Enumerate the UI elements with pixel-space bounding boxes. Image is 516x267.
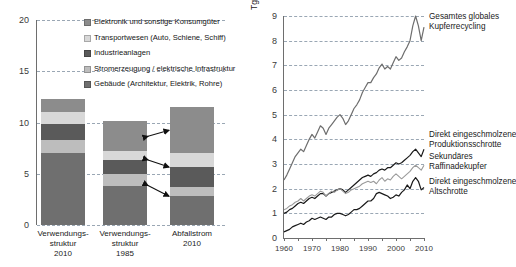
bar-segment-transport[interactable] <box>170 153 214 167</box>
stacked-bar[interactable] <box>170 107 214 225</box>
legend-item-gebaeude[interactable]: Gebäude (Architektur, Elektrik, Rohre) <box>84 79 249 88</box>
legend-swatch-icon-elektronik <box>84 19 91 26</box>
line-series-label-line: Direkt eingeschmolzene <box>429 177 516 187</box>
line-series-0[interactable] <box>284 16 424 180</box>
legend-item-label: Elektronik und sonstige Konsumgüter <box>94 17 220 26</box>
bar-category-label-line: 1985 <box>80 249 170 259</box>
line-x-tickmark-1975 <box>326 238 327 241</box>
line-y-tick-5: 5 <box>251 110 277 120</box>
bar-y-tick-5: 5 <box>0 169 29 179</box>
line-x-tick-2010: 2010 <box>410 244 438 253</box>
bar-y-tick-20: 20 <box>0 15 29 25</box>
line-x-tickmark-1980 <box>340 238 341 241</box>
bar-segment-elektronik[interactable] <box>170 107 214 153</box>
bar-connector-arrow-0 <box>148 130 169 136</box>
bar-y-tick-10: 10 <box>0 118 29 128</box>
line-chart-plot-area <box>284 16 424 238</box>
legend-item-transport[interactable]: Transportwesen (Auto, Schiene, Schiff) <box>84 33 249 42</box>
line-x-tickmark-1970 <box>312 238 313 241</box>
bar-category-label: Abfallstrom2010 <box>147 229 237 249</box>
legend-item-industrie[interactable]: Industrieanlagen <box>84 48 249 57</box>
bar-connector-arrow-1 <box>148 160 169 167</box>
legend-item-label: Stromerzeugung / elektrische Infrastrukt… <box>94 64 235 73</box>
bar-segment-gebaeude[interactable] <box>41 153 85 225</box>
line-x-tickmark-1965 <box>298 238 299 241</box>
legend-item-label: Industrieanlagen <box>94 48 150 57</box>
line-y-tick-8: 8 <box>251 36 277 46</box>
bar-segment-elektronik[interactable] <box>103 121 147 151</box>
legend-swatch-icon-transport <box>84 35 91 42</box>
stacked-bar[interactable] <box>41 99 85 225</box>
bar-y-axis-line <box>36 20 37 225</box>
bar-segment-strom[interactable] <box>41 140 85 153</box>
line-series-label-line: Raffinadekupfer <box>429 162 487 172</box>
bar-category-label-line: Abfallstrom <box>147 229 237 239</box>
line-y-tick-0: 0 <box>251 233 277 243</box>
bar-chart-legend: Elektronik und sonstige KonsumgüterTrans… <box>84 17 249 95</box>
bar-segment-gebaeude[interactable] <box>103 186 147 225</box>
line-series-label-altschrotte: Direkt eingeschmolzeneAltschrotte <box>429 177 516 196</box>
line-y-tick-9: 9 <box>251 11 277 21</box>
bar-segment-transport[interactable] <box>41 112 85 124</box>
stacked-bar[interactable] <box>103 121 147 225</box>
line-x-tick-1980: 1980 <box>326 244 354 253</box>
line-series-label-gesamt: Gesamtes globalesKupferrecycling <box>429 12 499 31</box>
legend-swatch-icon-strom <box>84 66 91 73</box>
line-x-tickmark-1990 <box>368 238 369 241</box>
line-y-tick-1: 1 <box>251 208 277 218</box>
line-x-tickmark-1960 <box>284 238 285 241</box>
legend-item-elektronik[interactable]: Elektronik und sonstige Konsumgüter <box>84 17 249 26</box>
stacked-bar-chart-panel: Elektronik und sonstige KonsumgüterTrans… <box>0 0 251 267</box>
line-series-label-line: Direkt eingeschmolzene <box>429 130 516 140</box>
line-x-tick-2000: 2000 <box>382 244 410 253</box>
line-series-1[interactable] <box>284 149 424 213</box>
line-y-tick-6: 6 <box>251 85 277 95</box>
line-y-tick-3: 3 <box>251 159 277 169</box>
bar-segment-gebaeude[interactable] <box>170 196 214 225</box>
line-x-tickmark-1985 <box>354 238 355 241</box>
line-series-label-produktionsschrotte: Direkt eingeschmolzeneProduktionsschrott… <box>429 130 516 149</box>
line-x-tickmark-2000 <box>396 238 397 241</box>
line-series-label-line: Altschrotte <box>429 187 516 197</box>
bar-connector-arrow-2 <box>148 186 169 197</box>
line-x-tick-1960: 1960 <box>270 244 298 253</box>
line-x-tick-1990: 1990 <box>354 244 382 253</box>
line-series-label-line: Sekundäres <box>429 152 487 162</box>
line-series-label-line: Produktionsschrotte <box>429 140 516 150</box>
legend-item-label: Gebäude (Architektur, Elektrik, Rohre) <box>94 79 222 88</box>
legend-item-label: Transportwesen (Auto, Schiene, Schiff) <box>94 33 226 42</box>
bar-category-label-line: 2010 <box>147 239 237 249</box>
bar-segment-industrie[interactable] <box>170 167 214 186</box>
line-chart-y-axis-label: Tg / a <box>249 0 259 10</box>
bar-segment-industrie[interactable] <box>41 124 85 140</box>
line-series-label-raffinadekupfer: SekundäresRaffinadekupfer <box>429 152 487 171</box>
bar-segment-transport[interactable] <box>103 151 147 160</box>
legend-swatch-icon-gebaeude <box>84 81 91 88</box>
line-chart-panel: Tg / a 012345678919601970198019902000201… <box>251 0 502 267</box>
bar-segment-elektronik[interactable] <box>41 99 85 112</box>
bar-gridline-0 <box>37 225 225 226</box>
line-series-label-line: Kupferrecycling <box>429 22 499 32</box>
bar-y-tick-15: 15 <box>0 66 29 76</box>
line-x-tickmark-2005 <box>410 238 411 241</box>
line-series-label-line: Gesamtes globales <box>429 12 499 22</box>
line-x-tick-1970: 1970 <box>298 244 326 253</box>
line-x-tickmark-2010 <box>424 238 425 241</box>
line-x-tickmark-1995 <box>382 238 383 241</box>
legend-item-strom[interactable]: Stromerzeugung / elektrische Infrastrukt… <box>84 64 249 73</box>
line-chart-series-group <box>284 16 424 238</box>
bar-segment-strom[interactable] <box>103 174 147 186</box>
bar-segment-strom[interactable] <box>170 187 214 197</box>
legend-swatch-icon-industrie <box>84 50 91 57</box>
line-y-tick-7: 7 <box>251 60 277 70</box>
line-y-tick-2: 2 <box>251 184 277 194</box>
line-y-tick-4: 4 <box>251 134 277 144</box>
bar-segment-industrie[interactable] <box>103 160 147 174</box>
